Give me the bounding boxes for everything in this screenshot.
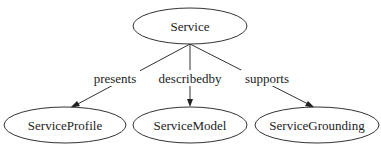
node-label-service-model: ServiceModel [154,118,227,133]
node-service-model: ServiceModel [133,107,247,143]
edge-label-describedby: describedby [159,71,222,86]
node-label-service: Service [171,19,210,34]
edge-label-supports: supports [245,71,289,86]
edge-label-presents: presents [94,71,137,86]
node-service: Service [133,8,247,44]
service-ontology-diagram: presents describedby supports Service Se… [0,0,381,149]
node-label-service-profile: ServiceProfile [28,118,103,133]
edge-describedby: describedby [155,44,225,107]
arrowhead-icon [187,99,193,107]
node-service-profile: ServiceProfile [4,107,126,143]
node-service-grounding: ServiceGrounding [255,107,379,143]
node-label-service-grounding: ServiceGrounding [269,118,365,133]
